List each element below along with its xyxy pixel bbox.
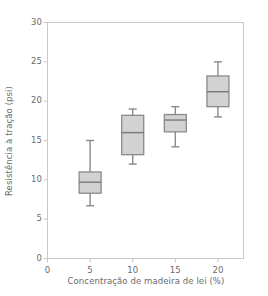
boxplot-figure: Resistência à tração (psi) Concentração … <box>0 0 268 296</box>
box-group <box>164 107 186 147</box>
axes-frame <box>48 23 244 259</box>
plot-frame <box>48 23 244 259</box>
y-tick-label: 20 <box>14 95 42 105</box>
x-axis-label: Concentração de madeira de lei (%) <box>0 276 268 286</box>
y-axis-label: Resistência à tração (psi) <box>4 85 14 195</box>
x-tick-label: 15 <box>160 265 190 275</box>
box-iqr <box>122 115 144 154</box>
x-tick-label: 20 <box>203 265 233 275</box>
box-group <box>122 109 144 164</box>
x-tick-label: 5 <box>75 265 105 275</box>
x-tick-label: 0 <box>33 265 63 275</box>
y-tick-label: 15 <box>14 135 42 145</box>
y-tick-label: 25 <box>14 56 42 66</box>
box-iqr <box>164 115 186 132</box>
x-tick-label: 10 <box>118 265 148 275</box>
box-series <box>79 62 229 206</box>
box-group <box>79 141 101 206</box>
box-group <box>207 62 229 117</box>
y-tick-label: 0 <box>14 253 42 263</box>
y-tick-label: 5 <box>14 213 42 223</box>
y-tick-label: 30 <box>14 17 42 27</box>
y-tick-label: 10 <box>14 174 42 184</box>
